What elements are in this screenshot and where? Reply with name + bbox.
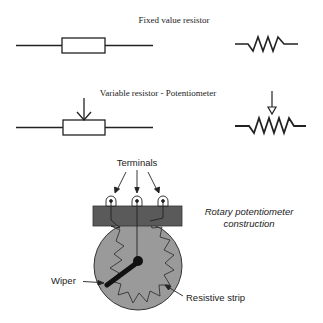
variable-resistor-zigzag-symbol bbox=[235, 118, 306, 133]
fixed-resistor-zigzag-symbol bbox=[235, 37, 298, 51]
rotary-caption-line2: construction bbox=[223, 218, 274, 229]
terminal-bar bbox=[93, 206, 182, 226]
variable-resistor-title: Variable resistor - Potentiometer bbox=[100, 88, 217, 98]
wiper-hollow-arrow-icon bbox=[268, 91, 276, 114]
resistor-diagram: Fixed value resistor Variable resistor -… bbox=[0, 0, 323, 323]
resistive-strip-label: Resistive strip bbox=[186, 292, 245, 303]
wiper-arrow-icon bbox=[77, 98, 91, 120]
wiper-label: Wiper bbox=[51, 275, 76, 286]
fixed-resistor-box-symbol bbox=[16, 38, 153, 53]
terminal-pointer-arrows bbox=[115, 170, 160, 193]
variable-resistor-box-symbol bbox=[16, 120, 153, 135]
rotary-caption-line1: Rotary potentiometer bbox=[205, 206, 295, 217]
fixed-resistor-title: Fixed value resistor bbox=[139, 15, 210, 25]
terminals-label: Terminals bbox=[117, 157, 158, 168]
